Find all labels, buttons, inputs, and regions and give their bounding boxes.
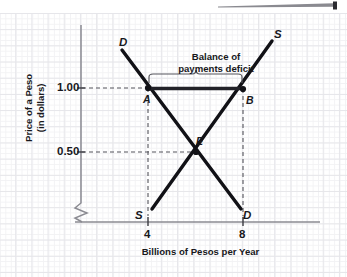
x-tick-label-4: 4 [144, 228, 150, 241]
supply-curve-label-top: S [274, 28, 282, 41]
supply-curve-label-bottom: S [135, 209, 143, 222]
deficit-annotation: Balance of payments deficit [156, 51, 276, 74]
y-tick-label-1-00: 1.00 [57, 81, 79, 94]
figure-canvas: Price of a Peso (in dollars) Billions of… [0, 0, 347, 277]
point-e-marker [193, 149, 199, 155]
y-axis-label-line-2: (in dollars) [35, 84, 46, 133]
y-tick-label-0-50: 0.50 [57, 145, 79, 158]
demand-curve-label-top: D [119, 36, 127, 49]
point-b-marker [240, 86, 246, 92]
demand-curve-label-bottom: D [243, 209, 251, 222]
y-axis-label-line-1: Price of a Peso [23, 74, 34, 142]
point-e-label: E [196, 135, 203, 147]
y-axis-label: Price of a Peso (in dollars) [23, 53, 47, 163]
point-a-label: A [143, 93, 151, 105]
point-b-label: B [246, 94, 254, 106]
point-a-marker [145, 85, 151, 91]
x-tick-label-8: 8 [239, 228, 245, 241]
deficit-annotation-line-2: payments deficit [156, 63, 276, 75]
deficit-annotation-line-1: Balance of [192, 51, 241, 62]
y-axis-line [75, 25, 87, 222]
plot-area [0, 0, 347, 277]
x-axis-label: Billions of Pesos per Year [81, 246, 320, 257]
